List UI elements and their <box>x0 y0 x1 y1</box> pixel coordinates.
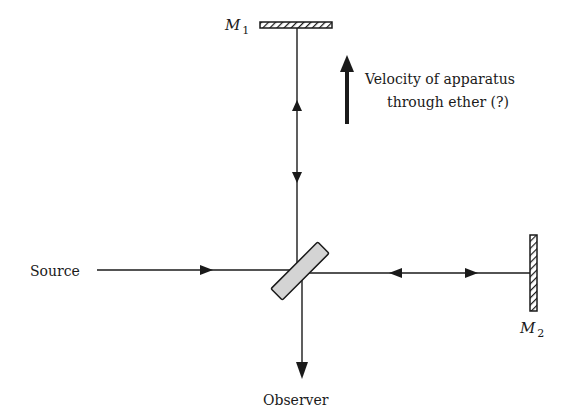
vertical-beam <box>292 28 308 379</box>
arrow-down-observer-icon <box>296 362 308 379</box>
michelson-diagram: M1 Velocity of apparatus through ether (… <box>0 0 575 409</box>
arrow-down-icon <box>292 172 302 183</box>
label-observer: Observer <box>263 392 329 408</box>
arrow-up-icon <box>292 100 302 111</box>
beam-splitter <box>271 242 329 300</box>
arrow-left-icon <box>389 268 402 278</box>
label-velocity-line1: Velocity of apparatus <box>364 71 515 87</box>
label-source: Source <box>30 263 80 279</box>
mirror-m2 <box>530 235 537 311</box>
arrow-right-icon <box>465 268 478 278</box>
arrow-right-source-icon <box>200 265 213 275</box>
velocity-arrow <box>340 55 354 124</box>
label-m1: M1 <box>224 16 249 37</box>
mirror-m1 <box>260 22 332 28</box>
arrow-up-velocity-icon <box>340 55 354 72</box>
label-m2: M2 <box>519 319 544 340</box>
label-velocity-line2: through ether (?) <box>387 94 509 110</box>
